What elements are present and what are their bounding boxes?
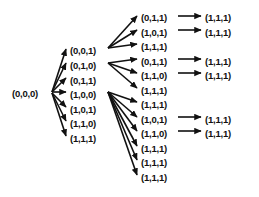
tree-node: (1,1,1) [205,27,231,38]
tree-edge-arrow [108,16,137,48]
tree-node: (1,1,1) [70,133,96,144]
tree-edge-arrow [108,63,137,88]
tree-edge-arrow [108,59,137,63]
tree-node: (1,0,1) [141,114,167,125]
tree-node: (1,1,1) [141,172,167,183]
tree-edge-arrow [108,92,137,102]
tree-edge-arrow [52,93,66,107]
tree-node: (1,1,0) [141,70,167,81]
tree-node: (0,0,1) [70,45,96,56]
tree-node: (0,1,0) [70,60,96,71]
tree-node: (0,1,1) [70,75,96,86]
tree-edge-arrow [52,93,66,121]
tree-edge-arrow [108,92,137,175]
tree-node: (1,1,1) [141,143,167,154]
tree-edge-arrow [108,92,137,160]
tree-edge-arrow [52,93,66,136]
tree-node: (1,1,1) [141,85,167,96]
state-transition-tree-diagram: (0,0,0)(0,0,1)(0,1,0)(0,1,1)(1,0,0)(1,0,… [0,0,259,197]
tree-edge-arrow [52,78,66,92]
tree-node: (0,1,1) [141,56,167,67]
tree-node: (1,1,1) [141,157,167,168]
tree-edge-arrow [108,92,137,117]
tree-edge-arrow [52,49,66,92]
tree-node: (0,0,0) [12,88,38,99]
tree-node: (1,1,1) [205,70,231,81]
tree-node: (1,1,1) [141,41,167,52]
tree-node: (1,1,1) [205,128,231,139]
tree-edge-arrow [108,63,137,73]
tree-node: (1,1,0) [70,118,96,129]
tree-edge-arrow [52,63,66,92]
tree-node: (0,1,1) [141,12,167,23]
tree-node: (1,1,1) [205,12,231,23]
tree-edge-arrow [108,92,137,146]
tree-node: (1,1,1) [205,114,231,125]
tree-node: (1,1,1) [141,99,167,110]
tree-node: (1,0,1) [70,104,96,115]
tree-node: (1,0,0) [70,89,96,100]
tree-edge-arrow [108,44,137,48]
tree-node: (1,1,0) [141,128,167,139]
tree-node: (1,0,1) [141,27,167,38]
tree-edge-arrow [108,30,137,48]
tree-node: (1,1,1) [205,56,231,67]
tree-edge-arrow [108,92,137,131]
